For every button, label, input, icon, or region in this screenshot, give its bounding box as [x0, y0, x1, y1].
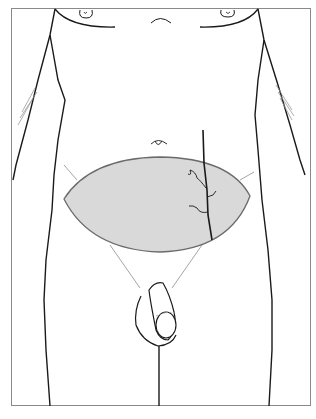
left-torso-outline	[13, 9, 55, 180]
umbilicus-icon	[151, 141, 167, 145]
anatomical-figure	[0, 0, 316, 419]
right-inguinal-line	[240, 172, 254, 180]
left-flank-outline	[44, 35, 65, 406]
excision-ellipse	[64, 157, 250, 252]
right-pectoral-line	[200, 9, 258, 27]
right-areola	[226, 12, 230, 14]
left-areola	[84, 12, 87, 14]
sternal-notch-line	[151, 19, 171, 24]
left-inguinal-line	[64, 165, 77, 180]
right-armpit-fold	[276, 85, 294, 120]
left-nipple-icon	[80, 10, 93, 18]
right-flank-outline	[255, 40, 272, 406]
glans-outline	[156, 312, 176, 338]
right-torso-outline	[258, 9, 305, 175]
